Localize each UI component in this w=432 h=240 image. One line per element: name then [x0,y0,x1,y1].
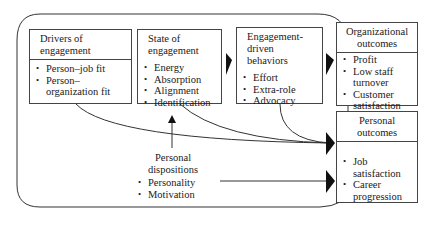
list-item: Profit [343,54,413,66]
list-item: Motivation [138,189,195,201]
list-item: Career [343,179,413,191]
personal-outcomes-list: Job satisfaction Career progression [337,142,417,202]
state-title-line: State of [148,33,216,45]
behaviors-title-line: driven [247,43,317,55]
list-item: Advocacy [243,95,318,107]
behaviors-title: Engagement- driven behaviors [237,28,322,69]
state-list: Energy Absorption Alignment Identificati… [138,59,221,108]
list-item: Energy [144,62,217,74]
behaviors-title-line: behaviors [247,55,317,67]
arrow-behaviors-to-org [326,53,334,75]
behaviors-title-line: Engagement- [247,31,317,43]
personal-outcomes-box: Personal outcomes Job satisfaction Caree… [336,111,418,203]
list-item: Personality [138,177,195,189]
dispositions-title-line: dispositions [135,164,211,176]
arrowhead-personal-bottom [326,170,335,193]
list-item-continuation: turnover [343,77,413,89]
state-title: State of engagement [138,30,221,59]
list-item: Customer [343,89,413,101]
drivers-title-line: engagement [40,45,126,57]
state-title-line: engagement [148,45,216,57]
personal-title-line: Personal [340,115,414,127]
dispositions-list: Personality Motivation [138,177,195,200]
org-outcomes-list: Profit Low staff turnover Customer satis… [337,53,417,112]
drivers-box: Drivers of engagement Person–job fit Per… [29,29,132,104]
behaviors-box: Engagement- driven behaviors Effort Extr… [236,27,323,104]
list-item: Job satisfaction [343,156,413,179]
list-item: Alignment [144,85,217,97]
behaviors-list: Effort Extra-role Advocacy [237,69,322,107]
list-item: Person– [36,75,127,87]
personal-outcomes-title: Personal outcomes [337,112,417,142]
arrowhead-up [168,115,176,123]
personal-title-line: outcomes [340,127,414,139]
drivers-title: Drivers of engagement [30,30,131,60]
list-item: Absorption [144,74,217,86]
org-title-line: Organizational [340,26,414,38]
list-item: Identification [144,97,217,109]
list-item-continuation: organization fit [36,86,127,98]
org-outcomes-title: Organizational outcomes [337,23,417,53]
list-item: Effort [243,72,318,84]
list-item-continuation: satisfaction [343,100,413,112]
list-item: Person–job fit [36,63,127,75]
arrow-state-to-behaviors [226,53,232,75]
list-item: Low staff [343,66,413,78]
org-title-line: outcomes [340,38,414,50]
arrowhead-personal-top [326,132,335,155]
list-item: Extra-role [243,84,318,96]
curve-drivers-to-personal [76,104,330,143]
dispositions-title-line: Personal [135,152,211,164]
curve-behaviors-to-personal [280,104,330,143]
org-outcomes-box: Organizational outcomes Profit Low staff… [336,22,418,106]
list-item-continuation: progression [343,191,413,203]
drivers-title-line: Drivers of [40,33,126,45]
dispositions-title: Personal dispositions [135,152,211,176]
state-box: State of engagement Energy Absorption Al… [137,29,222,104]
drivers-list: Person–job fit Person– organization fit [30,60,131,98]
